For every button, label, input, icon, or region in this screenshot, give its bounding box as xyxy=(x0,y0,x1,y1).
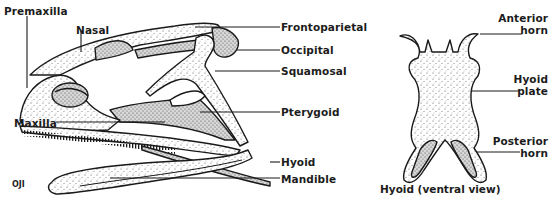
label-pterygoid: Pterygoid xyxy=(281,106,340,118)
label-occipital: Occipital xyxy=(281,44,334,56)
label-squamosal: Squamosal xyxy=(281,65,347,77)
nostril-opening xyxy=(52,83,88,107)
hyoid-plate xyxy=(400,34,486,183)
label-posterior-horn: Posterior horn xyxy=(490,135,548,159)
label-frontoparietal: Frontoparietal xyxy=(281,21,367,33)
label-posterior-horn-line1: Posterior xyxy=(490,135,548,147)
label-maxilla: Maxilla xyxy=(14,117,57,129)
label-mandible: Mandible xyxy=(281,173,336,185)
label-hyoid-plate: Hyoid plate xyxy=(490,73,548,97)
hyoid-caption: Hyoid (ventral view) xyxy=(380,183,500,195)
label-anterior-horn: Anterior horn xyxy=(490,12,548,36)
label-anterior-horn-line2: horn xyxy=(490,24,548,36)
label-posterior-horn-line2: horn xyxy=(490,147,548,159)
label-nasal: Nasal xyxy=(76,24,109,36)
label-hyoid-plate-line2: plate xyxy=(490,85,548,97)
label-hyoid: Hyoid xyxy=(281,156,315,168)
skull-lateral-drawing xyxy=(20,23,270,194)
frog-skull-figure: Premaxilla Nasal Frontoparietal Occipita… xyxy=(0,0,559,203)
label-hyoid-plate-line1: Hyoid xyxy=(490,73,548,85)
hyoid-ventral-drawing xyxy=(400,34,486,183)
label-anterior-horn-line1: Anterior xyxy=(490,12,548,24)
label-premaxilla: Premaxilla xyxy=(4,5,68,17)
occipital-bone xyxy=(212,28,238,58)
artist-credit: OJI xyxy=(12,180,25,189)
